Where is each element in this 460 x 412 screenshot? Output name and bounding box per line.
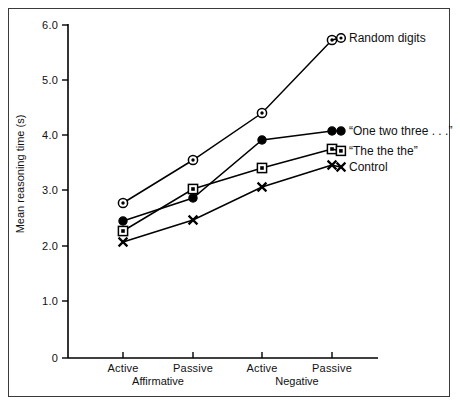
series-the-the-the: [118, 144, 336, 235]
legend-label-the-the-the: “The the the”: [349, 144, 418, 158]
series-control: [119, 161, 337, 247]
y-tick-label-0: 0: [24, 352, 58, 364]
y-axis-title: Mean reasoning time (s): [14, 94, 26, 254]
series-random-digits: [118, 35, 336, 207]
y-tick-label-3: 3.0: [24, 184, 58, 196]
y-tick-label-1: 1.0: [24, 295, 58, 307]
x-tick-label-negative-active: Active: [232, 362, 292, 374]
y-tick-label-2: 2.0: [24, 240, 58, 252]
x-group-label-negative: Negative: [257, 375, 337, 387]
y-axis-ticks: [62, 25, 68, 358]
legend-marker-random-digits: [337, 34, 346, 43]
x-tick-label-affirmative-passive: Passive: [163, 362, 223, 374]
x-group-label-affirmative: Affirmative: [118, 375, 198, 387]
y-tick-label-5: 5.0: [24, 74, 58, 86]
legend-label-random-digits: Random digits: [349, 31, 426, 45]
x-tick-label-negative-passive: Passive: [302, 362, 362, 374]
legend-marker-one-two-three: [337, 127, 345, 135]
legend-label-one-two-three: “One two three . . .”: [349, 124, 452, 138]
legend-label-control: Control: [349, 160, 388, 174]
x-axis-ticks: [123, 352, 332, 358]
y-tick-label-4: 4.0: [24, 129, 58, 141]
legend-marker-the-the-the: [336, 146, 345, 155]
series-one-two-three: [119, 127, 336, 225]
x-tick-label-affirmative-active: Active: [93, 362, 153, 374]
figure-container: Mean reasoning time (s) 6.0 5.0 4.0 3.0 …: [0, 0, 460, 412]
y-tick-label-6: 6.0: [24, 19, 58, 31]
line-chart-plot: [0, 0, 460, 412]
